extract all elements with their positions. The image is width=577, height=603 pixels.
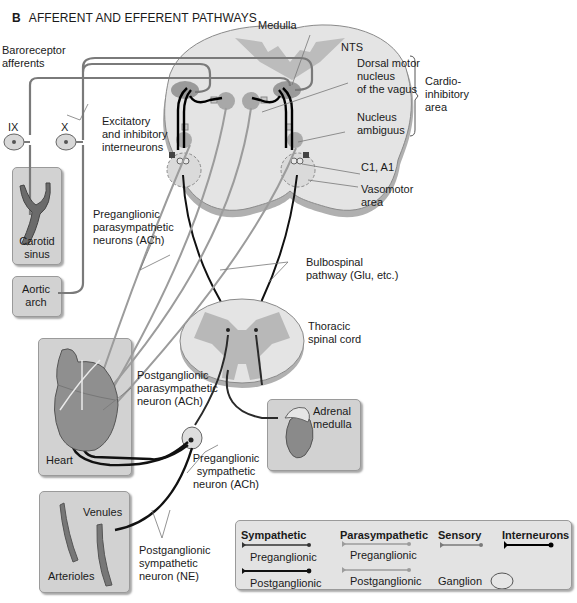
legend-sympathetic-post: Postganglionic: [250, 577, 322, 589]
label-preganglionic-sympathetic: Preganglionic sympathetic neuron (ACh): [191, 452, 261, 491]
legend: Sympathetic Parasympathetic Sensory Inte…: [235, 520, 572, 590]
label-medulla: Medulla: [258, 19, 297, 32]
label-cardioinhibitory-area: Cardio- inhibitory area: [425, 75, 469, 114]
label-thoracic-spinal-cord: Thoracic spinal cord: [308, 320, 361, 346]
label-baroreceptor-afferents: Baroreceptor afferents: [2, 44, 66, 70]
legend-line-interneurons: [504, 541, 554, 549]
na-right: [287, 132, 303, 148]
label-preganglionic-parasympathetic: Preganglionic parasympathetic neurons (A…: [93, 208, 174, 247]
legend-line-sympathetic-pre: [242, 542, 311, 548]
legend-ganglion-icon: [491, 573, 513, 589]
label-venules: Venules: [83, 506, 122, 519]
legend-line-sensory: [440, 542, 483, 548]
legend-parasympathetic-post: Postganglionic: [350, 575, 422, 587]
label-arterioles: Arterioles: [48, 570, 94, 583]
dmnv-right: [242, 92, 260, 110]
legend-line-parasympathetic-pre: [342, 541, 411, 547]
arteriole-icon: [60, 503, 78, 562]
label-vasomotor-area: Vasomotor area: [361, 183, 413, 209]
label-nucleus-ambiguus: Nucleus ambiguus: [357, 111, 405, 137]
label-nerve-x: X: [61, 121, 68, 134]
legend-ganglion: Ganglion: [438, 575, 482, 587]
aortic-afferent: [58, 145, 83, 293]
label-aortic-arch: Aortic arch: [12, 283, 60, 309]
heart-icon: [54, 349, 118, 451]
label-nts: NTS: [341, 41, 363, 54]
kidney-icon: [285, 407, 313, 457]
label-postganglionic-sympathetic: Postganglionic sympathetic neuron (NE): [139, 544, 211, 583]
dmnv-left: [217, 92, 235, 110]
label-nerve-ix: IX: [8, 121, 18, 134]
inhibitory-marker: [303, 152, 309, 158]
label-adrenal-medulla: Adrenal medulla: [313, 405, 352, 431]
inhibitory-marker: [169, 152, 175, 158]
legend-sympathetic-pre: Preganglionic: [250, 551, 317, 563]
legend-parasympathetic-pre: Preganglionic: [350, 549, 417, 561]
label-heart: Heart: [46, 454, 73, 467]
venule-icon: [97, 524, 112, 586]
label-carotid-sinus: Carotid sinus: [12, 235, 62, 261]
label-c1-a1: C1, A1: [361, 161, 394, 174]
label-postganglionic-parasympathetic: Postganglionic parasympathetic neuron (A…: [137, 369, 218, 408]
label-dorsal-motor-nucleus: Dorsal motor nucleus of the vagus: [357, 57, 420, 96]
legend-line-sympathetic-post: [242, 568, 311, 574]
label-bulbospinal-pathway: Bulbospinal pathway (Glu, etc.): [306, 256, 398, 282]
legend-line-parasympathetic-post: [342, 567, 411, 573]
label-excitatory-interneurons: Excitatory and inhibitory interneurons: [102, 115, 167, 154]
